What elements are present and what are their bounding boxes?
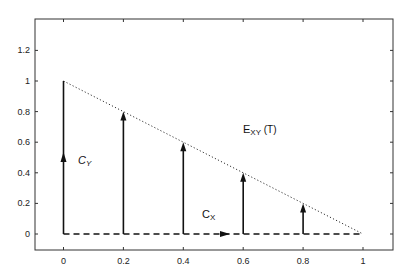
- x-tick-label: 0.6: [237, 256, 250, 266]
- x-tick-label: 0: [61, 256, 66, 266]
- x-axis-ticks: 00.20.40.60.81: [61, 19, 366, 266]
- y-tick-label: 0.8: [17, 107, 30, 117]
- y-tick-label: 1: [25, 76, 30, 86]
- cy-label: CY: [78, 154, 92, 168]
- cy-arrowhead: [61, 152, 67, 162]
- y-tick-label: 0.6: [17, 137, 30, 147]
- y-tick-label: 0.2: [17, 198, 30, 208]
- chart: 00.20.40.60.81 00.20.40.60.811.2 EXY (T)…: [0, 0, 410, 277]
- cx-label: CX: [202, 208, 216, 222]
- exy-line: [64, 81, 364, 234]
- y-tick-label: 0: [25, 229, 30, 239]
- y-tick-label: 0.4: [17, 168, 30, 178]
- y-tick-label: 1.2: [17, 45, 30, 55]
- x-tick-label: 0.8: [297, 256, 310, 266]
- arrowhead-icon: [120, 112, 126, 121]
- arrowhead-icon: [300, 203, 306, 212]
- cx-arrowhead: [220, 231, 230, 237]
- x-tick-label: 1: [360, 256, 365, 266]
- x-tick-label: 0.4: [177, 256, 190, 266]
- exy-label: EXY (T): [243, 123, 277, 137]
- x-tick-label: 0.2: [117, 256, 130, 266]
